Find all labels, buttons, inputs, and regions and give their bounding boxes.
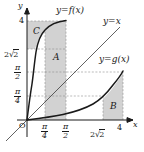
fraction-numerator: π [62, 123, 69, 131]
fraction-denominator: 2 [14, 72, 21, 81]
region-label-a: A [53, 53, 60, 62]
curve-label-g: y=g(x) [99, 55, 130, 64]
fraction-denominator: 4 [14, 96, 21, 105]
origin-label: O [19, 122, 26, 130]
fraction-numerator: π [14, 88, 21, 96]
x-tick-label-pi-2: π 2 [62, 123, 69, 140]
region-b-shape [103, 72, 123, 120]
region-label-c: C [33, 27, 40, 36]
region-label-b: B [110, 102, 117, 111]
y-axis-arrowhead [25, 8, 30, 14]
y-tick-label-4: 4 [19, 17, 24, 25]
radicand: 2 [100, 131, 105, 139]
region-a-shape [45, 21, 66, 120]
curve-label-f: y=f(x) [56, 6, 84, 15]
y-tick-label-pi-4: π 4 [14, 88, 21, 105]
math-figure: y=f(x) y=x y=g(x) C A B y x O 4 2√2 π 2 … [0, 0, 144, 152]
fraction-numerator: π [14, 64, 21, 72]
fraction-denominator: 2 [62, 131, 69, 140]
fraction-numerator: π [41, 123, 48, 131]
x-tick-label-2sqrt2: 2√2 [90, 124, 105, 140]
y-tick-label-2sqrt2: 2√2 [4, 44, 19, 60]
curve-label-identity: y=x [103, 17, 121, 26]
x-tick-label-pi-4: π 4 [41, 123, 48, 140]
x-axis-label: x [133, 121, 138, 129]
x-tick-label-4: 4 [117, 124, 122, 132]
y-axis-label: y [18, 2, 23, 10]
fraction-denominator: 4 [41, 131, 48, 140]
radicand: 2 [14, 51, 19, 59]
y-tick-label-pi-2: π 2 [14, 64, 21, 81]
